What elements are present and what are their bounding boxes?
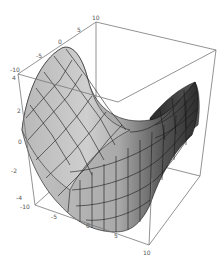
tick-label: 2	[17, 107, 21, 114]
tick-label: -5	[36, 52, 42, 59]
tick-label: 10	[92, 14, 100, 21]
tick-label: 5	[77, 26, 81, 33]
tick-label: 0	[18, 138, 22, 145]
tick-label: -10	[20, 203, 30, 210]
tick-label: -4	[16, 194, 22, 201]
tick-label: -5	[51, 213, 57, 220]
tick-label: 0	[58, 38, 62, 45]
tick-label: -2	[11, 167, 17, 174]
tick-label: 0	[86, 222, 90, 229]
tick-label: 10	[143, 249, 151, 256]
tick-label: -10	[10, 66, 20, 73]
tick-label: 4	[12, 74, 16, 81]
surface-plot: -10 -5 0 5 10 4 2 0 -2 -4 -10 -5 0 5 10	[0, 0, 224, 263]
tick-label: 5	[114, 232, 118, 239]
